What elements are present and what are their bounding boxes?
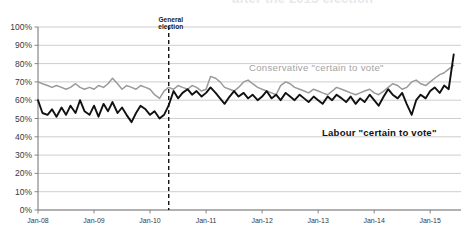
y-axis-tick-label: 40% xyxy=(15,132,32,142)
general-election-label-line1: General xyxy=(158,16,183,23)
x-axis-tick-label: Jan-11 xyxy=(196,217,217,224)
cropped-chart-title: after the 2015 election xyxy=(232,0,465,3)
x-axis-tick-label: Jan-15 xyxy=(419,217,441,224)
x-axis-tick-label: Jan-09 xyxy=(83,217,105,224)
labour-series-line xyxy=(38,54,454,122)
y-axis-labels-group: 100%90%80%70%60%50%40%30%20%10%0% xyxy=(10,22,32,215)
x-axis-tick-label: Jan-12 xyxy=(251,217,273,224)
x-axis-tick-label: Jan-08 xyxy=(27,217,49,224)
x-axis-tick-label: Jan-14 xyxy=(363,217,385,224)
x-axis-tick-label: Jan-10 xyxy=(139,217,161,224)
y-axis-tick-label: 80% xyxy=(15,59,32,69)
x-axis-labels-group: Jan-08Jan-09Jan-10Jan-11Jan-12Jan-13Jan-… xyxy=(27,210,441,224)
general-election-label-line2: election xyxy=(158,23,183,30)
x-axis-tick-label: Jan-13 xyxy=(307,217,329,224)
y-axis-tick-label: 100% xyxy=(10,22,32,32)
poll-trend-chart: after the 2015 election 100%90%80%70%60%… xyxy=(0,0,465,237)
y-axis-tick-label: 0% xyxy=(20,205,33,215)
gridlines-group xyxy=(35,27,462,210)
y-axis-tick-label: 10% xyxy=(15,187,32,197)
data-series-group xyxy=(38,54,454,122)
y-axis-tick-label: 90% xyxy=(15,40,32,50)
y-axis-tick-label: 70% xyxy=(15,77,32,87)
labour-series-label: Labour "certain to vote" xyxy=(322,127,437,138)
y-axis-tick-label: 20% xyxy=(15,168,32,178)
chart-canvas: 100%90%80%70%60%50%40%30%20%10%0% Jan-08… xyxy=(0,0,465,237)
y-axis-tick-label: 30% xyxy=(15,150,32,160)
y-axis-tick-label: 60% xyxy=(15,95,32,105)
y-axis-tick-label: 50% xyxy=(15,114,32,124)
conservative-series-label: Conservative "certain to vote" xyxy=(249,62,384,73)
